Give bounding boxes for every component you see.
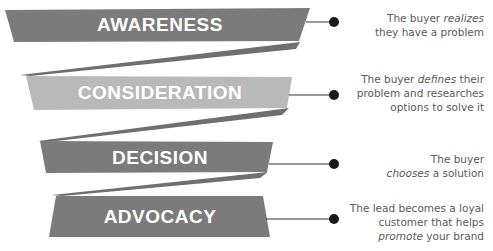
connector-awareness-consideration xyxy=(20,42,300,76)
dot-icon-decision xyxy=(329,159,339,169)
stage-label-awareness: AWARENESS xyxy=(60,14,260,36)
dot-icon-consideration xyxy=(329,90,339,100)
description-awareness: The buyer realizes they have a problem xyxy=(375,11,484,39)
description-advocacy: The lead becomes a loyal customer that h… xyxy=(350,201,484,243)
dot-icon-awareness xyxy=(329,17,339,27)
connector-consideration-decision xyxy=(38,108,289,142)
description-consideration: The buyer defines their problem and rese… xyxy=(357,72,484,114)
dot-icon-advocacy xyxy=(329,214,339,224)
stage-label-decision: DECISION xyxy=(60,147,260,169)
stage-label-advocacy: ADVOCACY xyxy=(60,206,260,228)
description-decision: The buyer chooses a solution xyxy=(387,152,484,180)
stage-label-consideration: CONSIDERATION xyxy=(60,82,260,104)
connector-decision-advocacy xyxy=(52,172,268,196)
